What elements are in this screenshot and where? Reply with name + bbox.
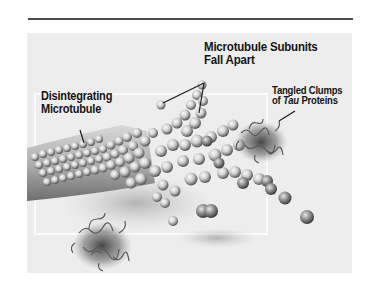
label-line: Microtubule bbox=[41, 102, 112, 114]
microtubule-illustration: Microtubule Subunits Fall Apart Disinteg… bbox=[27, 33, 352, 273]
label-text: Proteins bbox=[299, 95, 338, 107]
top-divider-rule bbox=[28, 18, 353, 20]
label-disintegrating-microtubule: Disintegrating Microtubule bbox=[41, 90, 112, 115]
label-tangled-tau-clumps: Tangled Clumps of Tau Proteins bbox=[272, 85, 342, 107]
label-line: Microtubule Subunits bbox=[204, 40, 318, 53]
label-line: of Tau Proteins bbox=[272, 96, 342, 107]
label-line: Fall Apart bbox=[204, 53, 318, 66]
label-text-italic: Tau bbox=[283, 95, 299, 107]
illustration-graphic bbox=[27, 33, 352, 273]
label-text: of bbox=[272, 95, 283, 107]
label-line: Disintegrating bbox=[41, 90, 112, 102]
label-microtubule-subunits: Microtubule Subunits Fall Apart bbox=[204, 40, 318, 66]
